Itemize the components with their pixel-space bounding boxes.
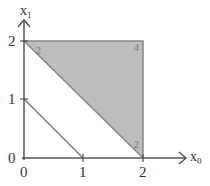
x-tick-label-0: 0 [20, 164, 28, 180]
x-tick-label-2: 2 [139, 164, 147, 180]
x-tick-label-1: 1 [79, 164, 87, 180]
shaded-region [24, 41, 143, 158]
y-axis-label-subscript: 1 [27, 10, 32, 20]
y-axis-label: x1 [20, 3, 32, 20]
constraint-line [24, 99, 83, 158]
x-axis-label: x0 [190, 149, 202, 166]
y-tick-label-0: 0 [8, 150, 16, 166]
x-axis-label-base: x [190, 149, 197, 164]
y-axis-label-base: x [20, 3, 27, 18]
y-tick-label-1: 1 [8, 91, 16, 107]
x-axis-label-subscript: 0 [197, 156, 202, 166]
vertex-label-top-right: 4 [134, 42, 139, 53]
feasible-region-diagram: 0 1 2 0 1 2 x1 x0 2 4 2 [0, 0, 210, 186]
y-tick-label-2: 2 [8, 33, 16, 49]
vertex-label-top-left: 2 [36, 45, 41, 56]
vertex-label-bottom-right: 2 [134, 139, 139, 150]
